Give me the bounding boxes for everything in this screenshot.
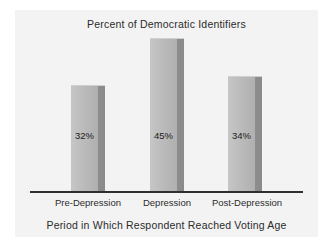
x-axis-line [30, 191, 303, 193]
bar-value-label-pre-depression: 32% [71, 130, 98, 141]
x-tick-label-post-depression: Post-Depression [195, 197, 299, 208]
bar-value-label-depression: 45% [150, 130, 177, 141]
chart-figure: Percent of Democratic Identifiers 32% 45… [0, 0, 333, 248]
bar-depression[interactable] [150, 38, 184, 191]
x-axis-title: Period in Which Respondent Reached Votin… [15, 219, 318, 231]
plot-area: 32% 45% 34% Pre-Depression Depression Po… [0, 0, 333, 248]
bar-value-label-post-depression: 34% [228, 130, 255, 141]
